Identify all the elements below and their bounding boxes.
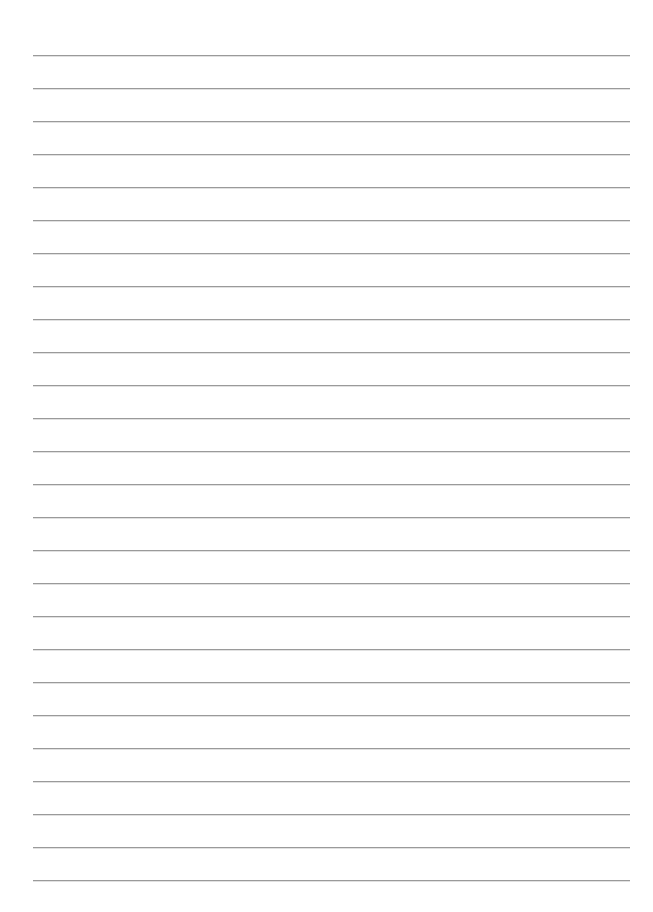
ruled-line xyxy=(33,847,630,848)
ruled-line xyxy=(33,286,630,287)
ruled-line xyxy=(33,121,630,122)
lined-paper-page xyxy=(0,0,653,912)
ruled-line xyxy=(33,187,630,188)
ruled-line xyxy=(33,385,630,386)
ruled-line xyxy=(33,319,630,320)
ruled-line xyxy=(33,220,630,221)
ruled-line xyxy=(33,649,630,650)
ruled-line xyxy=(33,253,630,254)
ruled-line xyxy=(33,550,630,551)
ruled-line xyxy=(33,814,630,815)
ruled-line xyxy=(33,748,630,749)
ruled-line xyxy=(33,451,630,452)
ruled-line xyxy=(33,715,630,716)
ruled-line xyxy=(33,517,630,518)
ruled-line xyxy=(33,781,630,782)
ruled-line xyxy=(33,154,630,155)
ruled-line xyxy=(33,55,630,56)
ruled-line xyxy=(33,484,630,485)
ruled-line xyxy=(33,616,630,617)
ruled-line xyxy=(33,682,630,683)
ruled-line xyxy=(33,880,630,881)
ruled-line xyxy=(33,418,630,419)
ruled-line xyxy=(33,352,630,353)
ruled-line xyxy=(33,88,630,89)
ruled-line xyxy=(33,583,630,584)
